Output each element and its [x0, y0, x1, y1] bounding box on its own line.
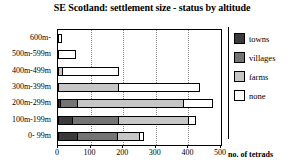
x-axis-tick-label: 300: [149, 148, 161, 157]
bar-row: [58, 132, 144, 141]
bar-segment-farms: [118, 116, 189, 125]
x-axis-tick-label: 400: [181, 148, 193, 157]
legend-item-towns[interactable]: towns: [234, 29, 300, 48]
y-axis-labels: 600m-500m-599m400m-499m300m-399m200m-299…: [0, 29, 54, 144]
x-axis-tick-label: 500: [214, 148, 226, 157]
bar-segment-none: [62, 67, 119, 76]
bar-segment-none: [118, 83, 200, 92]
x-axis-tick-label: 100: [84, 148, 96, 157]
legend-swatch-farms: [234, 71, 245, 82]
x-axis-title: no. of tetrads: [228, 150, 273, 159]
legend-item-none[interactable]: none: [234, 86, 300, 105]
legend-label: farms: [249, 72, 268, 82]
bar-row: [58, 116, 196, 125]
bar-segment-farms: [77, 99, 184, 108]
bar-segment-none: [58, 34, 62, 43]
plot-area: [57, 29, 222, 146]
bar-segment-none: [58, 50, 76, 59]
bar-row: [58, 83, 200, 92]
bars-layer: [58, 30, 221, 145]
x-axis-tick-label: 0: [55, 148, 59, 157]
bar-segment-none: [188, 116, 196, 125]
bar-segment-farms: [58, 83, 119, 92]
legend-label: towns: [249, 34, 269, 44]
legend-swatch-towns: [234, 33, 245, 44]
chart-container: SE Scotland: settlement size - status by…: [0, 0, 304, 167]
y-axis-label: 100m-199m: [12, 115, 51, 124]
legend-label: villages: [249, 53, 275, 63]
bar-segment-none: [183, 99, 213, 108]
y-axis-label: 200m-299m: [12, 98, 51, 107]
legend-item-farms[interactable]: farms: [234, 67, 300, 86]
legend-swatch-villages: [234, 52, 245, 63]
y-axis-label: 600m-: [30, 33, 51, 42]
y-axis-label: 300m-399m: [12, 82, 51, 91]
chart-title: SE Scotland: settlement size - status by…: [0, 2, 304, 13]
bar-row: [58, 99, 213, 108]
x-axis-tick-label: 200: [116, 148, 128, 157]
y-axis-label: 400m-499m: [12, 66, 51, 75]
y-axis-label: 500m-599m: [12, 49, 51, 58]
legend-item-villages[interactable]: villages: [234, 48, 300, 67]
legend-divider: [228, 27, 229, 139]
bar-segment-villages: [72, 116, 119, 125]
legend-label: none: [249, 91, 266, 101]
bar-segment-none: [139, 132, 144, 141]
chart-legend: townsvillagesfarmsnone: [234, 29, 300, 105]
bar-segment-towns: [58, 116, 73, 125]
y-axis-label: 0- 99m: [28, 131, 51, 140]
bar-segment-farms: [117, 132, 140, 141]
bar-segment-towns: [58, 132, 78, 141]
bar-row: [58, 34, 62, 43]
bar-row: [58, 67, 119, 76]
bar-segment-villages: [60, 99, 78, 108]
bar-row: [58, 50, 76, 59]
legend-swatch-none: [234, 90, 245, 101]
bar-segment-villages: [77, 132, 118, 141]
